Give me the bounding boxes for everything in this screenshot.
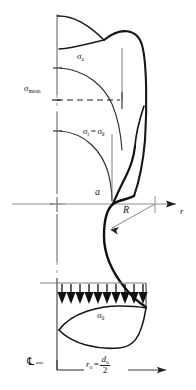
- pressure-arrow: [75, 284, 84, 304]
- sigma-theta-subscript: θ: [102, 131, 105, 137]
- label-a: a: [95, 186, 100, 197]
- radius-arrowhead: [110, 227, 119, 235]
- label-sigma-r-theta: σr=σθ: [83, 126, 105, 137]
- pressure-arrow: [102, 284, 111, 304]
- label-R: R: [123, 204, 129, 215]
- main-stress-curve-upper: [113, 146, 135, 204]
- sigma-r-theta-curve: [60, 131, 112, 201]
- label-sigma-mean: σmean: [24, 83, 41, 94]
- sigma-z-outer-boundary: [104, 31, 146, 196]
- label-sigma-z: σz: [77, 51, 84, 62]
- label-sigma-0: σ0: [97, 310, 104, 321]
- pressure-arrow: [84, 284, 93, 304]
- radius-leader-line: [112, 204, 155, 228]
- pressure-arrow: [120, 284, 129, 304]
- top-lens-lower-curve: [59, 40, 104, 49]
- sigma-0-subscript: 0: [101, 315, 104, 321]
- pressure-arrow: [93, 284, 102, 304]
- pressure-arrow: [111, 284, 120, 304]
- pressure-arrow: [66, 284, 75, 304]
- r-o-fraction: do 2: [100, 355, 109, 375]
- main-stress-curve-upper-join: [135, 106, 144, 146]
- sigma-r-subscript: r: [87, 131, 89, 137]
- sigma-equals-sign: =: [91, 126, 96, 136]
- r-o-lhs-subscript: o: [90, 364, 93, 370]
- sigma-mean-subscript: mean: [28, 88, 40, 94]
- r-o-denominator: 2: [100, 366, 109, 375]
- label-r-o-formula: ro= do 2: [86, 355, 110, 375]
- sigma-z-curve: [60, 68, 122, 150]
- label-r-axis: r: [180, 206, 184, 216]
- r-o-equals: =: [94, 359, 99, 369]
- top-lens-upper-curve: [59, 16, 104, 40]
- pressure-arrow: [57, 284, 66, 304]
- label-centerline: ℄: [27, 355, 34, 368]
- r-o-num-subscript: o: [106, 359, 109, 365]
- stress-distribution-figure: σz σmean σr=σθ a R r σ0 ℄ ro= do 2: [0, 0, 196, 390]
- pressure-arrow-group: [57, 284, 147, 304]
- sigma-z-subscript: z: [81, 56, 83, 62]
